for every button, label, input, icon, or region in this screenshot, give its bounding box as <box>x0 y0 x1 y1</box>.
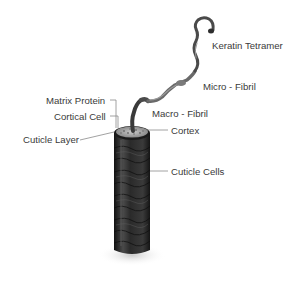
label-matrix-protein: Matrix Protein <box>46 95 105 106</box>
label-keratin-tetramer: Keratin Tetramer <box>212 40 283 51</box>
micro-fibril <box>148 71 195 101</box>
label-macro-fibril: Macro - Fibril <box>152 108 208 119</box>
keratin-tetramer <box>194 18 214 71</box>
label-micro-fibril: Micro - Fibril <box>203 81 256 92</box>
hair-structure-diagram: Keratin Tetramer Micro - Fibril Macro - … <box>0 0 302 284</box>
label-cortex: Cortex <box>171 125 199 136</box>
hair-shaft <box>114 133 150 254</box>
label-cortical-cell: Cortical Cell <box>54 111 106 122</box>
leader-matrix-protein <box>110 100 116 128</box>
leader-cortical-cell <box>110 116 118 128</box>
label-cuticle-cells: Cuticle Cells <box>171 166 224 177</box>
leader-cuticle-layer <box>80 132 114 140</box>
label-cuticle-layer: Cuticle Layer <box>23 134 79 145</box>
